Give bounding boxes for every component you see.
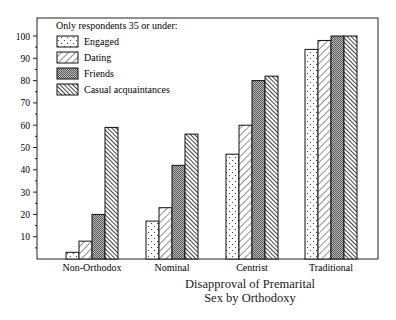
y-tick-label: 20 — [21, 210, 31, 220]
bar-friends — [92, 214, 105, 259]
bar-casual-acquaintances — [105, 127, 118, 259]
bar-engaged — [226, 154, 239, 259]
x-tick-label: Centrist — [236, 262, 268, 273]
legend-swatch — [57, 84, 78, 95]
bar-group-nominal — [146, 134, 198, 259]
bar-chart: 102030405060708090100 Non-OrthodoxNomina… — [0, 0, 396, 320]
y-tick-label: 90 — [21, 54, 31, 64]
bar-dating — [159, 208, 172, 259]
x-axis-labels: Non-OrthodoxNominalCentristTraditional — [63, 262, 354, 273]
bar-group-centrist — [226, 76, 278, 259]
x-tick-label: Nominal — [155, 262, 190, 273]
legend-label: Dating — [84, 52, 111, 63]
legend-swatch — [57, 68, 78, 79]
bar-friends — [331, 36, 344, 259]
chart-caption-line-1: Disapproval of Premarital — [150, 277, 350, 291]
chart-caption-line-2: Sex by Orthodoxy — [150, 291, 350, 305]
y-axis: 102030405060708090100 — [16, 32, 37, 248]
y-tick-label: 100 — [16, 32, 31, 42]
legend-label: Friends — [84, 68, 114, 79]
bar-engaged — [66, 252, 79, 259]
bar-group-non-orthodox — [66, 127, 118, 259]
bar-dating — [318, 40, 331, 259]
bar-friends — [252, 81, 265, 259]
bar-group-traditional — [305, 36, 357, 259]
bar-dating — [239, 125, 252, 259]
y-tick-label: 70 — [21, 98, 31, 108]
y-tick-label: 60 — [21, 121, 31, 131]
x-tick-label: Non-Orthodox — [63, 262, 122, 273]
legend-swatch — [57, 52, 78, 63]
y-tick-label: 50 — [21, 143, 31, 153]
legend-title: Only respondents 35 or under: — [56, 20, 178, 31]
legend: Only respondents 35 or under: EngagedDat… — [56, 20, 178, 95]
x-tick-label: Traditional — [309, 262, 353, 273]
bar-dating — [79, 241, 92, 259]
legend-label: Casual acquaintances — [84, 84, 170, 95]
legend-swatch — [57, 36, 78, 47]
y-tick-label: 40 — [21, 165, 31, 175]
bar-casual-acquaintances — [265, 76, 278, 259]
bar-engaged — [305, 49, 318, 259]
bar-casual-acquaintances — [344, 36, 357, 259]
bar-engaged — [146, 221, 159, 259]
bar-friends — [172, 165, 185, 259]
legend-label: Engaged — [84, 36, 119, 47]
y-tick-label: 80 — [21, 76, 31, 86]
bar-casual-acquaintances — [185, 134, 198, 259]
y-tick-label: 10 — [21, 232, 31, 242]
y-tick-label: 30 — [21, 188, 31, 198]
